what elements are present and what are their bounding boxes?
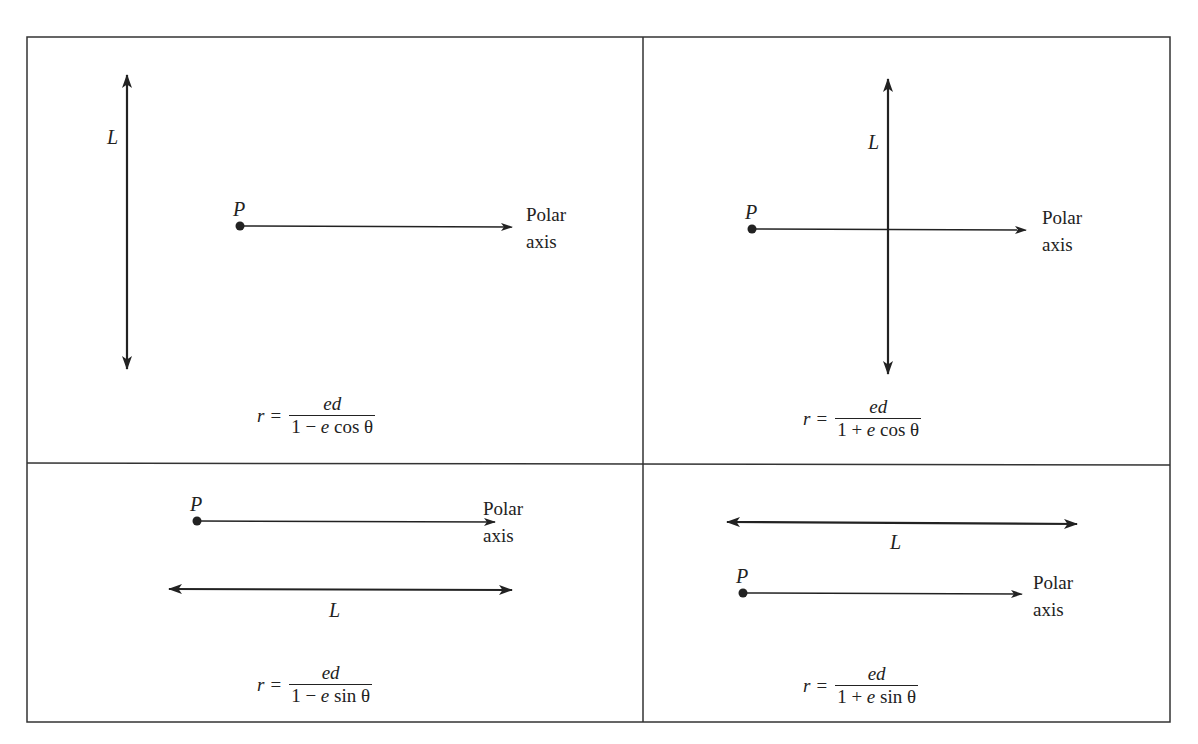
polar-equation: r = ed 1 − e sin θ [257, 663, 372, 707]
formula-numerator: ed [864, 664, 890, 685]
polar-axis-label: Polar axis [1033, 569, 1073, 623]
den-const: 1 [291, 416, 301, 437]
formula-numerator: ed [865, 397, 891, 418]
polar-axis-label-line1: Polar [1042, 204, 1082, 231]
formula-lhs: r [803, 408, 810, 430]
den-operator: − [305, 685, 316, 706]
outer-frame [27, 37, 1170, 722]
den-operator: + [851, 419, 862, 440]
den-const: 1 [837, 419, 847, 440]
den-e: e [321, 685, 329, 706]
polar-axis-label-line1: Polar [526, 201, 566, 228]
den-e: e [867, 686, 875, 707]
polar-axis-arrow [198, 521, 495, 522]
pole-label: P [190, 494, 202, 514]
den-trig: sin θ [334, 685, 370, 706]
formula-numerator: ed [319, 394, 345, 415]
den-trig: cos θ [334, 416, 373, 437]
conic-directrix-diagram: L P Polar axis r = ed 1 − e cos θ L P Po… [0, 0, 1198, 744]
directrix-label: L [329, 600, 340, 620]
polar-equation: r = ed 1 + e cos θ [803, 397, 921, 441]
panel-top-right-graphics [748, 79, 1027, 374]
den-const: 1 [291, 685, 301, 706]
pole-label: P [745, 202, 757, 222]
formula-denominator: 1 + e cos θ [835, 418, 921, 441]
polar-axis-label-line2: axis [1033, 596, 1073, 623]
panel-bottom-left-graphics [169, 517, 512, 591]
pole-point [236, 222, 245, 231]
formula-lhs: r [257, 405, 264, 427]
directrix-line-arrow [169, 589, 512, 590]
fraction: ed 1 − e cos θ [289, 394, 375, 438]
polar-axis-label: Polar axis [526, 201, 566, 255]
formula-equals: = [270, 405, 281, 427]
pole-point [739, 589, 748, 598]
polar-axis-label-line2: axis [526, 228, 566, 255]
den-operator: − [305, 416, 316, 437]
directrix-line-arrow [727, 522, 1077, 524]
polar-axis-label: Polar axis [1042, 204, 1082, 258]
polar-axis-label-line1: Polar [483, 495, 523, 522]
polar-axis-label: Polar axis [483, 495, 523, 549]
fraction: ed 1 − e sin θ [289, 663, 372, 707]
formula-lhs: r [803, 675, 810, 697]
pole-point [748, 225, 757, 234]
formula-lhs: r [257, 674, 264, 696]
formula-equals: = [816, 675, 827, 697]
polar-axis-label-line2: axis [483, 522, 523, 549]
pole-label: P [736, 566, 748, 586]
den-const: 1 [837, 686, 847, 707]
den-e: e [867, 419, 875, 440]
pole-point [193, 517, 202, 526]
panel-bottom-right-graphics [727, 522, 1077, 598]
polar-axis-label-line1: Polar [1033, 569, 1073, 596]
fraction: ed 1 + e cos θ [835, 397, 921, 441]
horizontal-divider [27, 463, 1170, 465]
polar-axis-label-line2: axis [1042, 231, 1082, 258]
directrix-label: L [107, 127, 118, 147]
pole-label: P [233, 199, 245, 219]
den-trig: cos θ [880, 419, 919, 440]
den-operator: + [851, 686, 862, 707]
den-e: e [321, 416, 329, 437]
polar-axis-arrow [744, 593, 1022, 594]
polar-axis-arrow [241, 226, 512, 227]
panel-top-left-graphics [127, 75, 512, 369]
directrix-label: L [890, 532, 901, 552]
polar-axis-arrow [753, 229, 1026, 230]
formula-denominator: 1 − e sin θ [289, 684, 372, 707]
formula-equals: = [816, 408, 827, 430]
polar-equation: r = ed 1 − e cos θ [257, 394, 375, 438]
polar-equation: r = ed 1 + e sin θ [803, 664, 918, 708]
fraction: ed 1 + e sin θ [835, 664, 918, 708]
directrix-label: L [868, 132, 879, 152]
den-trig: sin θ [880, 686, 916, 707]
formula-numerator: ed [318, 663, 344, 684]
formula-denominator: 1 + e sin θ [835, 685, 918, 708]
formula-denominator: 1 − e cos θ [289, 415, 375, 438]
formula-equals: = [270, 674, 281, 696]
diagram-graphics [0, 0, 1198, 744]
